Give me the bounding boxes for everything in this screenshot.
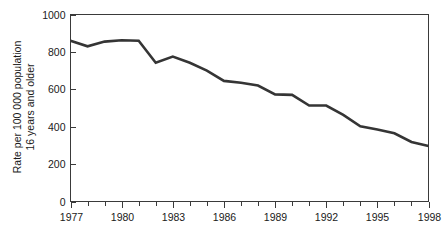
y-axis-tick-label: 1000 <box>42 9 66 21</box>
x-axis-tick-label: 1983 <box>162 211 186 223</box>
chart-canvas: Rate per 100 000 population 16 years and… <box>0 0 447 235</box>
y-axis-tick-label: 800 <box>48 46 66 58</box>
line-chart-figure: Rate per 100 000 population 16 years and… <box>0 0 447 235</box>
x-axis-tick-label: 1977 <box>60 211 84 223</box>
data-series-line <box>71 40 429 146</box>
axis-spines <box>71 15 429 202</box>
y-axis-label-line2: 16 years and older <box>24 63 36 150</box>
x-axis-tick-group: 19771980198319861989199219951998 <box>60 202 442 223</box>
x-axis-tick-label: 1986 <box>213 211 237 223</box>
x-axis-tick-label: 1998 <box>418 211 442 223</box>
x-axis-tick-label: 1995 <box>366 211 390 223</box>
x-axis-tick-label: 1980 <box>111 211 135 223</box>
y-axis-tick-label: 600 <box>48 83 66 95</box>
x-axis-tick-label: 1992 <box>315 211 339 223</box>
y-axis-tick-label: 400 <box>48 121 66 133</box>
y-axis-tick-label: 200 <box>48 158 66 170</box>
x-axis-tick-label: 1989 <box>264 211 288 223</box>
y-axis-label-line1: Rate per 100 000 population <box>11 41 23 174</box>
y-axis-tick-label: 0 <box>60 196 66 208</box>
